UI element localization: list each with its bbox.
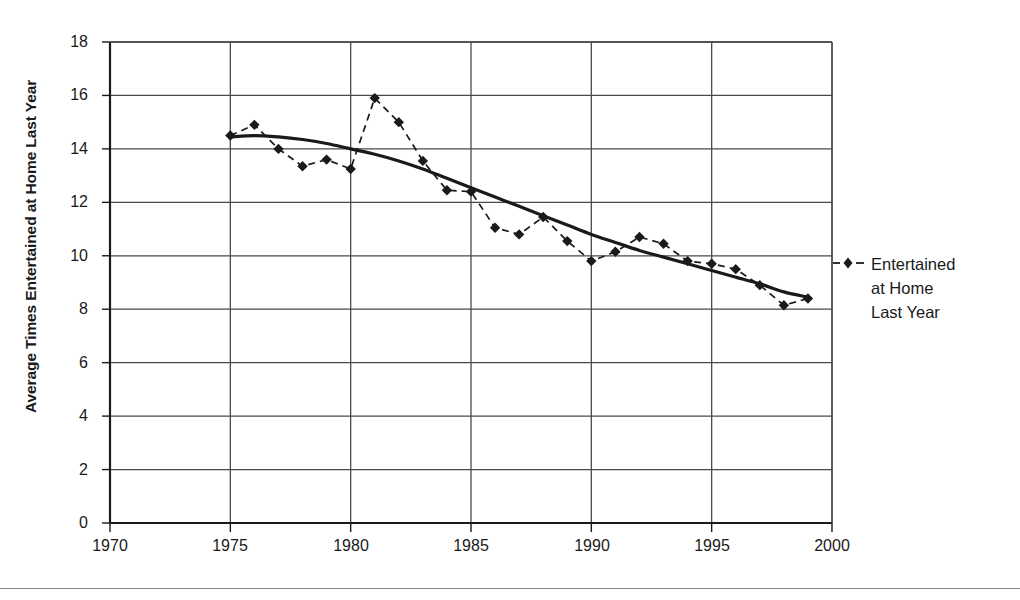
legend-entry: Entertained at Home Last Year: [833, 252, 1013, 324]
legend-label: Entertained at Home Last Year: [871, 252, 955, 324]
data-point-marker: [321, 154, 331, 164]
data-point-marker: [586, 256, 596, 266]
data-point-marker: [345, 164, 355, 174]
diamond-marker-icon: [833, 252, 867, 274]
data-point-marker: [490, 223, 500, 233]
data-point-marker: [706, 259, 716, 269]
gridlines: [110, 42, 832, 523]
chart-legend: Entertained at Home Last Year: [833, 252, 1013, 324]
chart-figure: Average Times Entertained at Home Last Y…: [0, 0, 1020, 600]
data-point-marker: [634, 232, 644, 242]
data-markers: [225, 93, 813, 310]
bottom-divider: [0, 588, 1020, 589]
axis-ticks: [102, 42, 832, 532]
data-point-marker: [249, 120, 259, 130]
trend-line: [230, 136, 808, 298]
data-point-marker: [514, 229, 524, 239]
data-point-marker: [731, 264, 741, 274]
legend-swatch: [833, 252, 867, 274]
data-point-marker: [225, 130, 235, 140]
